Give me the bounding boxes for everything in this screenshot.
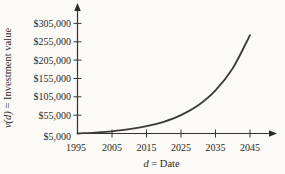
x-tick-label: 2005 <box>102 142 122 153</box>
y-tick-label: $5,000 <box>44 131 72 142</box>
x-axis-title: d = Date <box>143 158 180 169</box>
x-tick-label: 2035 <box>206 142 226 153</box>
y-tick-label: $255,000 <box>34 36 72 47</box>
y-axis <box>74 3 82 134</box>
y-axis-title: v(d) = Investment value <box>2 28 14 128</box>
x-tick-label: 2025 <box>171 142 191 153</box>
y-tick-label: $105,000 <box>34 91 72 102</box>
investment-growth-chart: $305,000 $255,000 $205,000 $155,000 $105… <box>0 0 285 174</box>
y-axis-title-text: = Investment value <box>2 28 13 112</box>
investment-value-curve <box>78 35 251 133</box>
x-tick-label: 1995 <box>66 142 86 153</box>
y-tick-labels: $305,000 $255,000 $205,000 $155,000 $105… <box>34 18 72 142</box>
x-axis-title-text: = Date <box>149 158 180 169</box>
x-axis <box>78 130 278 138</box>
x-tick-label: 2015 <box>137 142 157 153</box>
y-axis-arrow-icon <box>74 3 81 11</box>
y-tick-label: $55,000 <box>39 110 72 121</box>
chart-canvas: $305,000 $255,000 $205,000 $155,000 $105… <box>0 0 285 174</box>
x-axis-arrow-icon <box>269 130 277 136</box>
y-tick-label: $305,000 <box>34 18 72 29</box>
x-tick-label: 2045 <box>240 142 260 153</box>
x-tick-labels: 1995 2005 2015 2025 2035 2045 <box>66 142 260 153</box>
y-tick-label: $205,000 <box>34 55 72 66</box>
y-axis-title-variable: v(d) <box>2 111 14 128</box>
y-tick-label: $155,000 <box>34 73 72 84</box>
